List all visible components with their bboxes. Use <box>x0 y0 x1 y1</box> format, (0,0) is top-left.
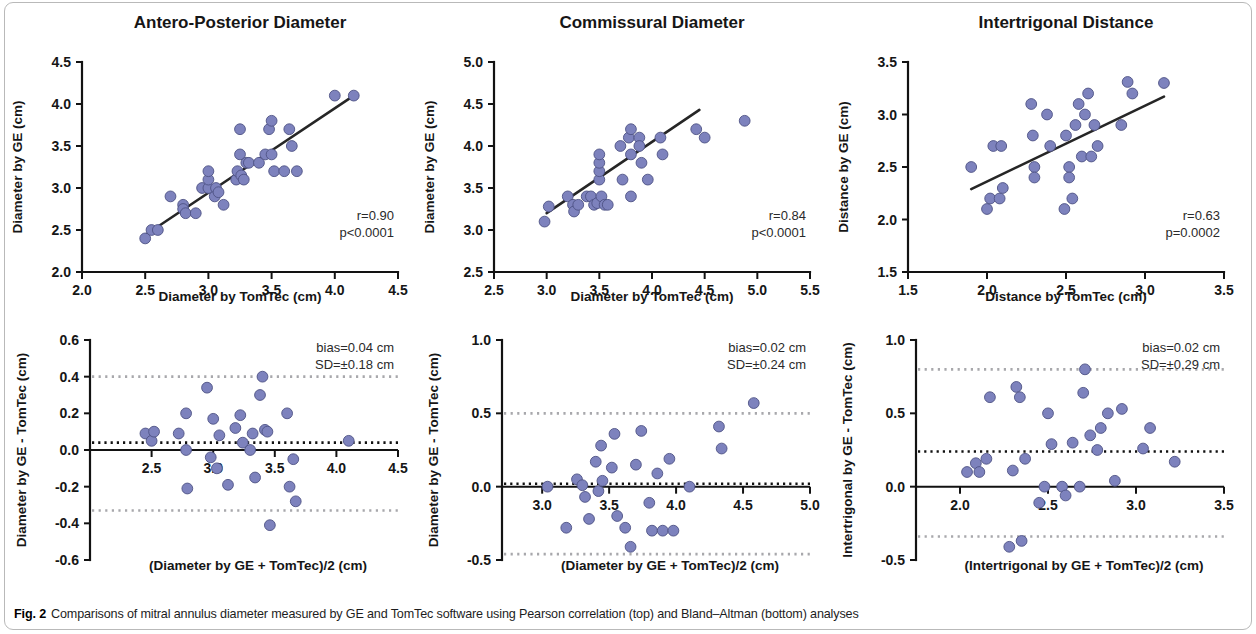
annotation-secondary: SD=±0.18 cm <box>315 357 394 372</box>
data-point <box>1064 172 1075 183</box>
data-point <box>652 468 663 479</box>
data-point <box>597 475 608 486</box>
data-point <box>1169 456 1180 467</box>
chart-ap-correlation: Antero-Posterior Diameter2.02.53.03.54.0… <box>0 0 412 308</box>
data-point <box>714 421 725 432</box>
data-points-group <box>966 77 1170 215</box>
data-point <box>626 149 637 160</box>
y-tick-label: 1.0 <box>886 332 906 348</box>
data-point <box>238 174 249 185</box>
data-point <box>1092 141 1103 152</box>
y-axis-label: Distance by GE (cm) <box>836 101 851 232</box>
data-point <box>212 463 223 474</box>
data-point <box>1011 382 1022 393</box>
data-point <box>1080 109 1091 120</box>
data-point <box>247 428 258 439</box>
x-tick-label: 4.5 <box>388 460 408 476</box>
y-axis-label: Diameter by GE (cm) <box>10 101 25 234</box>
data-point <box>657 149 668 160</box>
data-point <box>1014 392 1025 403</box>
x-axis-label: Diameter by TomTec (cm) <box>158 289 321 304</box>
data-point <box>284 481 295 492</box>
data-point <box>284 124 295 135</box>
data-point <box>348 90 359 101</box>
data-point <box>996 141 1007 152</box>
data-point <box>230 423 241 434</box>
x-axis-label: (Diameter by GE + TomTec)/2 (cm) <box>561 558 779 573</box>
y-tick-label: 0.6 <box>60 332 80 348</box>
data-point <box>190 208 201 219</box>
x-tick-label: 5.0 <box>800 497 820 513</box>
data-point <box>1045 141 1056 152</box>
data-points-group <box>542 398 759 553</box>
x-axis-label: (Intertrigonal by GE + TomTec)/2 (cm) <box>964 558 1203 573</box>
y-tick-label: 0.0 <box>60 442 80 458</box>
y-tick-label: -0.5 <box>467 552 491 568</box>
data-point <box>269 166 280 177</box>
data-point <box>1060 490 1071 501</box>
data-point <box>539 216 550 227</box>
annotation-secondary: p<0.0001 <box>339 225 394 240</box>
data-point <box>1085 430 1096 441</box>
data-point <box>580 492 591 503</box>
data-point <box>235 124 246 135</box>
data-point <box>1117 404 1128 415</box>
data-point <box>180 208 191 219</box>
figure-caption: Fig. 2Comparisons of mitral annulus diam… <box>0 598 1256 632</box>
x-axis-label: Distance by TomTec (cm) <box>985 289 1147 304</box>
y-tick-label: -0.6 <box>55 552 79 568</box>
panel-commissural-bland-altman: -0.50.00.51.03.03.54.04.55.0bias=0.02 cm… <box>412 308 824 598</box>
data-point <box>620 522 631 533</box>
panel-intertrigonal-bland-altman: -0.50.00.51.02.02.53.03.5bias=0.02 cmSD=… <box>826 308 1238 598</box>
data-point <box>625 541 636 552</box>
data-point <box>1046 439 1057 450</box>
data-point <box>288 454 299 465</box>
data-point <box>668 525 679 536</box>
data-point <box>1145 423 1156 434</box>
data-point <box>282 408 293 419</box>
panel-intertrigonal-correlation: Intertrigonal Distance1.52.02.53.03.51.5… <box>826 0 1238 308</box>
caption-body: Comparisons of mitral annulus diameter m… <box>51 607 859 621</box>
data-point <box>543 201 554 212</box>
data-point <box>1007 465 1018 476</box>
chart-title: Antero-Posterior Diameter <box>134 13 347 32</box>
data-point <box>213 187 224 198</box>
chart-title: Commissural Diameter <box>559 13 745 32</box>
data-point <box>1059 204 1070 215</box>
y-tick-label: 0.0 <box>886 479 906 495</box>
data-point <box>1043 408 1054 419</box>
x-tick-label: 5.5 <box>800 282 820 298</box>
data-point <box>981 453 992 464</box>
x-tick-label: 1.5 <box>898 282 918 298</box>
y-tick-label: 1.5 <box>878 264 898 280</box>
chart-it-correlation: Intertrigonal Distance1.52.02.53.03.51.5… <box>826 0 1238 308</box>
data-point <box>636 426 647 437</box>
data-point <box>982 204 993 215</box>
data-point <box>1016 536 1027 547</box>
y-tick-label: 3.5 <box>878 54 898 70</box>
annotation-primary: r=0.90 <box>357 208 394 223</box>
data-point <box>266 115 277 126</box>
x-tick-label: 3.5 <box>1214 497 1234 513</box>
figure-root: Antero-Posterior Diameter2.02.53.03.54.0… <box>0 0 1256 634</box>
data-point <box>250 472 261 483</box>
x-tick-label: 4.0 <box>666 497 686 513</box>
data-point <box>149 426 160 437</box>
data-point <box>257 371 268 382</box>
chart-title: Intertrigonal Distance <box>979 13 1154 32</box>
data-point <box>561 522 572 533</box>
x-tick-label: 4.5 <box>388 282 408 298</box>
data-point <box>1086 151 1097 162</box>
y-tick-label: 0.5 <box>472 405 492 421</box>
data-point <box>1089 120 1100 131</box>
y-tick-label: 0.2 <box>60 405 80 421</box>
data-point <box>594 149 605 160</box>
data-point <box>245 445 256 456</box>
y-tick-label: 2.5 <box>464 264 484 280</box>
data-point <box>739 115 750 126</box>
y-tick-label: 4.5 <box>464 96 484 112</box>
data-point <box>626 124 637 135</box>
data-point <box>1102 408 1113 419</box>
x-tick-label: 4.0 <box>325 282 345 298</box>
y-axis-label: Diameter by GE - TomTec (cm) <box>14 353 29 548</box>
